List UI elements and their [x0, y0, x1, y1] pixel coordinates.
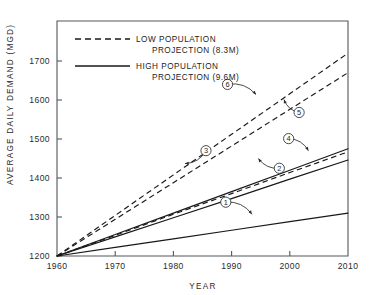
chart-background — [0, 0, 375, 295]
y-tick-label: 1400 — [29, 173, 50, 183]
legend-label-high-line2: PROJECTION (9.6M) — [152, 73, 239, 82]
callout-number: 4 — [287, 134, 291, 143]
x-axis-title: YEAR — [189, 282, 216, 291]
chart-figure: 120013001400150016001700 196019701980199… — [0, 0, 375, 295]
y-tick-label: 1200 — [29, 251, 50, 261]
y-tick-label: 1600 — [29, 95, 50, 105]
callout-number: 5 — [297, 108, 301, 117]
legend-label-low-line1: LOW POPULATION — [136, 35, 216, 44]
legend-label-high-line1: HIGH POPULATION — [136, 62, 218, 71]
x-tick-label: 2000 — [279, 261, 300, 271]
y-axis-title: AVERAGE DAILY DEMAND (MGD) — [6, 24, 15, 185]
legend-label-low-line2: PROJECTION (8.3M) — [152, 46, 239, 55]
x-tick-label: 1970 — [105, 261, 126, 271]
x-tick-label: 2010 — [338, 261, 359, 271]
x-tick-label: 1980 — [163, 261, 184, 271]
x-tick-label: 1990 — [221, 261, 242, 271]
callout-number: 2 — [277, 164, 281, 173]
population-water-demand-line-chart: 120013001400150016001700 196019701980199… — [0, 0, 375, 295]
y-tick-label: 1300 — [29, 212, 50, 222]
y-tick-label: 1500 — [29, 134, 50, 144]
callout-number: 1 — [224, 198, 228, 207]
x-tick-label: 1960 — [47, 261, 68, 271]
callout-number: 3 — [204, 146, 208, 155]
y-tick-label: 1700 — [29, 56, 50, 66]
